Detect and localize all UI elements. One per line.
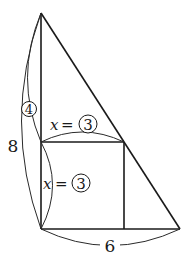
geometry-diagram: 8 4 x = 3 x = 3 6 xyxy=(0,0,196,269)
square-top-value: 3 xyxy=(83,116,93,134)
height-label: 8 xyxy=(8,136,19,156)
square-left-equals: = xyxy=(55,175,68,193)
upper-segment-label: 4 xyxy=(25,102,33,117)
square-top-equals: = xyxy=(61,116,74,134)
base-label: 6 xyxy=(105,236,116,256)
square-left-x-label: x xyxy=(43,175,52,193)
upper-segment-arc xyxy=(28,13,42,142)
square-left-value: 3 xyxy=(76,175,86,193)
square-top-x-label: x xyxy=(50,116,59,134)
